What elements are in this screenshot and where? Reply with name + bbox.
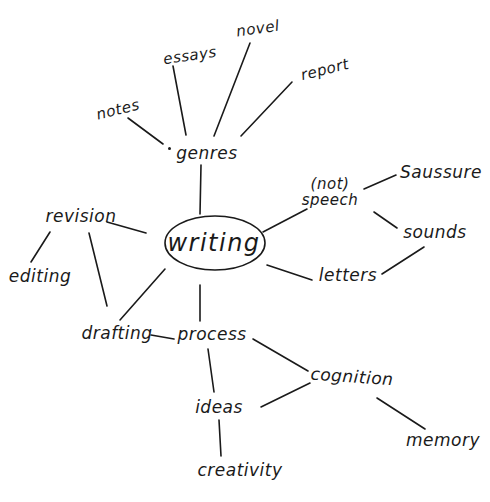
mind-map-canvas: writing genres notes essays novel report… [0, 0, 490, 502]
node-saussure: Saussure [400, 164, 482, 181]
edge-process-cognition [253, 339, 308, 371]
genres-dot-mark [168, 147, 171, 150]
edge-revision-drafting [89, 233, 107, 306]
edge-speech-saussure [364, 175, 396, 189]
edge-writing-genres [200, 165, 201, 214]
edge-genres-essays [173, 66, 186, 135]
node-speech: (not) speech [302, 177, 359, 209]
node-revision: revision [46, 208, 117, 225]
edge-genres-novel [214, 43, 250, 136]
edge-speech-sounds [374, 212, 397, 228]
node-editing: editing [9, 268, 71, 285]
node-writing: writing [167, 231, 260, 255]
node-ideas: ideas [195, 399, 243, 416]
edge-writing-speech [263, 209, 307, 232]
edge-ideas-creativity [219, 420, 221, 456]
edge-writing-letters [267, 265, 312, 280]
edge-ideas-cognition [261, 383, 310, 407]
edge-revision-editing [31, 232, 50, 262]
edge-cognition-memory [377, 398, 425, 429]
node-creativity: creativity [197, 462, 282, 479]
node-letters: letters [319, 267, 377, 284]
node-process: process [177, 326, 246, 343]
edge-genres-report [241, 82, 292, 136]
edge-process-ideas [208, 349, 214, 392]
speech-label: speech [302, 193, 359, 209]
edge-drafting-process [151, 335, 174, 339]
edge-genres-notes [128, 118, 163, 144]
node-sounds: sounds [403, 224, 466, 241]
edge-writing-drafting [120, 269, 165, 320]
edge-sounds-letters [382, 247, 424, 274]
node-drafting: drafting [81, 325, 152, 342]
node-genres: genres [176, 145, 237, 162]
node-memory: memory [406, 432, 480, 449]
